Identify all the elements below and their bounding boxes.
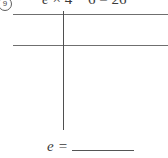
answer-row: e = — [47, 138, 134, 155]
minus-sign: − — [76, 0, 84, 7]
answer-equals-sign: = — [59, 138, 67, 155]
equation-subtrahend: 6 — [88, 0, 96, 7]
answer-variable-label: e — [47, 138, 54, 155]
problem-number-marker: 9 — [0, 0, 12, 11]
equals-sign: = — [99, 0, 107, 7]
answer-blank-input[interactable] — [72, 141, 134, 151]
work-grid-vertical-divider — [63, 11, 64, 130]
work-grid-middle-rule — [13, 45, 168, 46]
equation-text: e × 4 − 6 = 26 — [42, 0, 127, 7]
work-grid-top-rule — [13, 14, 168, 15]
worksheet-problem: 9 e × 4 − 6 = 26 e = — [0, 0, 168, 158]
equation-factor: 4 — [65, 0, 73, 7]
equation-result: 26 — [112, 0, 127, 7]
multiplication-sign: × — [52, 0, 60, 7]
equation-variable: e — [42, 0, 49, 7]
